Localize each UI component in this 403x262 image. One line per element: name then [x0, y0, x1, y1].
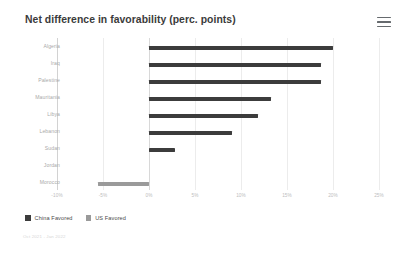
bar-row-label: Iraq [51, 60, 60, 66]
bar-row: Sudan [0, 142, 403, 159]
legend-item[interactable]: US Favored [86, 215, 126, 221]
bar[interactable] [149, 97, 271, 100]
bar-row: Lebanon [0, 125, 403, 142]
bar[interactable] [98, 182, 149, 185]
bar-row-label: Palestine [38, 77, 60, 83]
footer-note: Oct 2021 - Jan 2022 [23, 234, 66, 239]
chart-legend: China FavoredUS Favored [25, 213, 126, 223]
legend-label: China Favored [35, 215, 73, 221]
bar-rows: AlgeriaIraqPalestineMauritaniaLibyaLeban… [0, 38, 403, 190]
legend-swatch-icon [25, 215, 31, 221]
bar-row: Jordan [0, 159, 403, 176]
chart-card: Net difference in favorability (perc. po… [0, 0, 403, 262]
bar-row-label: Mauritania [35, 94, 60, 100]
x-tick-label: -10% [51, 193, 62, 198]
legend-item[interactable]: China Favored [25, 215, 73, 221]
x-tick-label: 15% [282, 193, 292, 198]
bar-row-label: Libya [47, 111, 60, 117]
chart-header: Net difference in favorability (perc. po… [0, 14, 403, 36]
bar-row-label: Jordan [44, 162, 60, 168]
plot-area: AlgeriaIraqPalestineMauritaniaLibyaLeban… [0, 38, 403, 198]
bar-row-label: Lebanon [39, 128, 60, 134]
bar-row-label: Algeria [43, 43, 60, 49]
bar[interactable] [149, 148, 175, 151]
bar-row: Libya [0, 108, 403, 125]
bar-row: Algeria [0, 40, 403, 57]
legend-swatch-icon [86, 215, 92, 221]
legend-label: US Favored [95, 215, 126, 221]
x-tick-label: -5% [99, 193, 108, 198]
x-tick-label: 0% [146, 193, 153, 198]
x-tick-label: 20% [328, 193, 338, 198]
bar[interactable] [149, 114, 258, 117]
bar[interactable] [149, 131, 232, 134]
bar-row: Palestine [0, 74, 403, 91]
bar-row: Mauritania [0, 91, 403, 108]
bar[interactable] [149, 63, 321, 66]
x-tick-label: 25% [374, 193, 384, 198]
bar[interactable] [149, 46, 333, 49]
bar-row: Morocco [0, 176, 403, 193]
hamburger-menu-icon[interactable] [377, 17, 393, 31]
bar[interactable] [149, 80, 321, 83]
bar-row: Iraq [0, 57, 403, 74]
chart-title: Net difference in favorability (perc. po… [25, 14, 236, 25]
x-axis-tick-labels: -10%-5%0%5%10%15%20%25% [0, 193, 403, 203]
bar-row-label: Morocco [40, 179, 60, 185]
bar-row-label: Sudan [45, 145, 60, 151]
x-tick-label: 10% [236, 193, 246, 198]
x-tick-label: 5% [192, 193, 199, 198]
